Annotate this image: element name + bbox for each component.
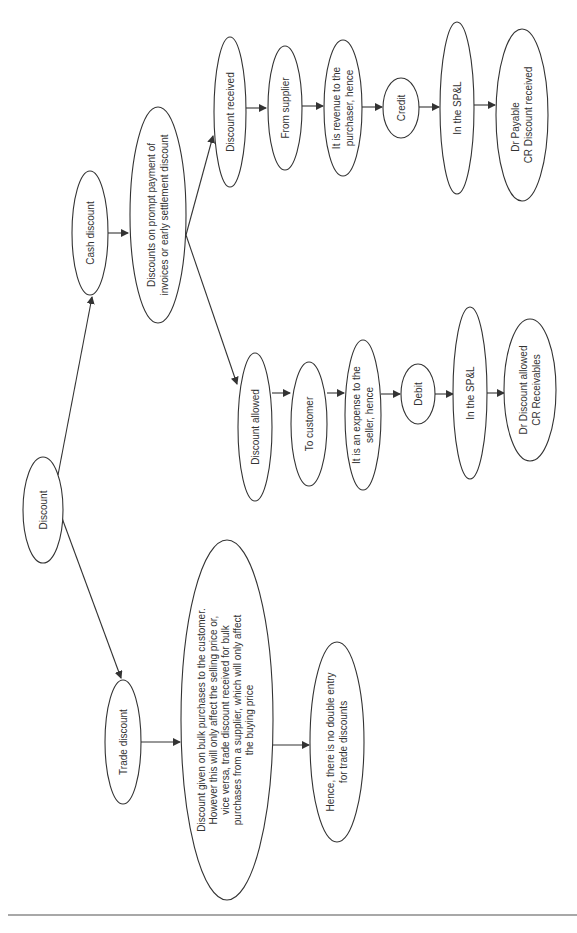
node-label: Debit: [413, 382, 424, 406]
node-label: vice versa, trade discount received for …: [220, 624, 231, 815]
edge-definition-received: [186, 136, 213, 235]
node-trade-definition: Discount given on bulk purchases to the …: [181, 540, 273, 900]
node-label: In the SP&L: [465, 366, 476, 420]
node-debit: Debit: [401, 364, 435, 424]
node-label: From supplier: [280, 77, 291, 139]
node-label: for trade discounts: [338, 701, 349, 783]
node-label: seller, hence: [364, 386, 375, 443]
node-label: Dr Discount allowed: [518, 346, 529, 435]
discount-flowchart: Discount Cash discount Discounts on prom…: [0, 0, 577, 933]
node-label: Discounts on prompt payment of: [146, 143, 157, 287]
node-label: purchaser, hence: [344, 69, 355, 146]
node-trade-discount: Trade discount: [105, 680, 141, 804]
node-in-spl-allowed: In the SP&L: [453, 307, 487, 479]
node-label: Cash discount: [85, 201, 96, 265]
edges: [58, 105, 504, 745]
edge-discount-cash: [58, 297, 92, 475]
node-entry-received: Dr Payable CR Discount received: [496, 29, 548, 201]
node-label: In the SP&L: [452, 81, 463, 135]
node-label: It is an expense to the: [351, 366, 362, 464]
node-expense-to-seller: It is an expense to the seller, hence: [345, 340, 381, 490]
node-no-double-entry: Hence, there is no double entry for trad…: [310, 642, 364, 842]
edge-discount-trade: [62, 518, 121, 678]
node-label: Dr Payable: [510, 102, 521, 152]
node-label: However this will only affect the sellin…: [208, 616, 219, 825]
node-label: purchases from a supplier, which will on…: [232, 615, 243, 826]
node-label: CR Discount received: [523, 67, 534, 164]
bottom-divider: [8, 914, 577, 916]
node-label: Trade discount: [118, 709, 129, 775]
node-from-supplier: From supplier: [268, 46, 302, 170]
node-discount-allowed: Discount allowed: [238, 353, 272, 501]
node-label: It is revenue to the: [331, 66, 342, 149]
node-label: Discount given on bulk purchases to the …: [196, 608, 207, 831]
node-label: invoices or early settlement discount: [159, 134, 170, 295]
node-label: the buying price: [244, 684, 255, 755]
node-label: Discount: [38, 490, 49, 529]
node-entry-allowed: Dr Discount allowed CR Receivables: [504, 319, 556, 461]
node-label: Discount allowed: [250, 389, 261, 465]
node-revenue-to-purchaser: It is revenue to the purchaser, hence: [324, 40, 362, 176]
node-credit: Credit: [383, 78, 419, 138]
edge-definition-allowed: [186, 235, 237, 384]
node-cash-discount: Cash discount: [72, 171, 108, 295]
node-label: To customer: [304, 396, 315, 451]
node-to-customer: To customer: [291, 362, 327, 486]
node-cash-definition: Discounts on prompt payment of invoices …: [130, 107, 186, 323]
node-in-spl-received: In the SP&L: [440, 22, 474, 194]
node-label: CR Receivables: [531, 354, 542, 426]
node-label: Discount received: [225, 72, 236, 151]
node-label: Hence, there is no double entry: [325, 673, 336, 812]
node-discount-received: Discount received: [214, 37, 246, 187]
node-discount: Discount: [23, 457, 63, 563]
node-label: Credit: [396, 94, 407, 121]
